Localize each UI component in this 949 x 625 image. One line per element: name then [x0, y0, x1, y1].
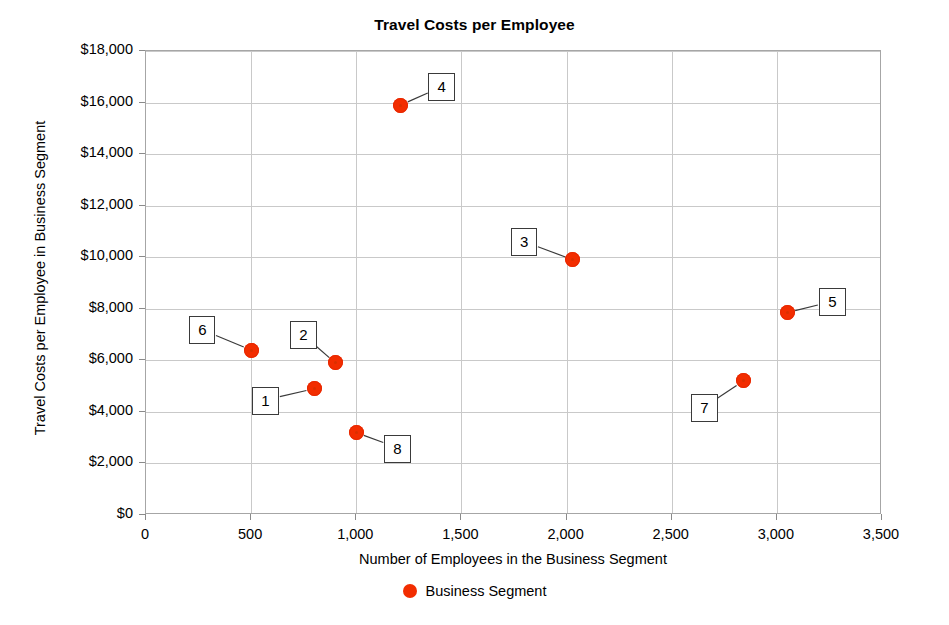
y-tick-label: $0	[33, 505, 133, 521]
x-tick-label: 2,000	[526, 526, 606, 542]
x-tick-mark	[355, 514, 356, 520]
y-tick-mark	[139, 50, 145, 51]
data-point	[565, 252, 580, 267]
data-point-label: 4	[428, 73, 454, 101]
leader-lines	[146, 51, 882, 515]
plot-area: 12345678	[145, 50, 881, 514]
y-tick-label: $16,000	[33, 93, 133, 109]
data-point-label: 3	[511, 228, 537, 256]
chart-title: Travel Costs per Employee	[0, 16, 949, 34]
data-point-label: 2	[290, 321, 316, 349]
x-tick-label: 0	[105, 526, 185, 542]
data-point	[307, 381, 322, 396]
data-point	[393, 98, 408, 113]
x-tick-label: 2,500	[631, 526, 711, 542]
y-gridline	[146, 257, 880, 258]
y-tick-mark	[139, 462, 145, 463]
legend-label: Business Segment	[426, 583, 547, 599]
y-tick-mark	[139, 411, 145, 412]
y-tick-mark	[139, 359, 145, 360]
y-tick-mark	[139, 205, 145, 206]
chart-legend: Business Segment	[0, 583, 949, 601]
y-gridline	[146, 51, 880, 52]
x-gridline	[251, 51, 252, 513]
x-tick-label: 1,000	[315, 526, 395, 542]
y-gridline	[146, 463, 880, 464]
y-gridline	[146, 154, 880, 155]
x-tick-label: 1,500	[420, 526, 500, 542]
x-tick-mark	[566, 514, 567, 520]
y-tick-label: $12,000	[33, 196, 133, 212]
y-gridline	[146, 360, 880, 361]
x-tick-label: 3,500	[841, 526, 921, 542]
y-tick-label: $2,000	[33, 453, 133, 469]
y-tick-label: $18,000	[33, 41, 133, 57]
data-point-label: 5	[819, 288, 845, 316]
y-tick-label: $4,000	[33, 402, 133, 418]
x-gridline	[672, 51, 673, 513]
x-tick-mark	[460, 514, 461, 520]
scatter-chart: Travel Costs per Employee Travel Costs p…	[0, 0, 949, 625]
x-tick-mark	[250, 514, 251, 520]
data-point	[328, 355, 343, 370]
y-gridline	[146, 309, 880, 310]
x-gridline	[777, 51, 778, 513]
y-tick-mark	[139, 153, 145, 154]
x-tick-mark	[881, 514, 882, 520]
y-tick-mark	[139, 102, 145, 103]
data-point-label: 6	[189, 316, 215, 344]
y-axis-title: Travel Costs per Employee in Business Se…	[32, 43, 48, 513]
x-tick-label: 500	[210, 526, 290, 542]
x-tick-mark	[671, 514, 672, 520]
y-tick-mark	[139, 256, 145, 257]
y-tick-label: $8,000	[33, 299, 133, 315]
y-tick-label: $6,000	[33, 350, 133, 366]
data-point	[244, 343, 259, 358]
data-point	[780, 305, 795, 320]
x-tick-mark	[145, 514, 146, 520]
data-point-label: 8	[384, 435, 410, 463]
data-point-label: 1	[252, 387, 278, 415]
x-tick-label: 3,000	[736, 526, 816, 542]
data-point	[736, 373, 751, 388]
x-axis-title: Number of Employees in the Business Segm…	[145, 551, 881, 567]
y-tick-mark	[139, 308, 145, 309]
x-gridline	[567, 51, 568, 513]
y-tick-label: $14,000	[33, 144, 133, 160]
y-gridline	[146, 103, 880, 104]
data-point	[349, 425, 364, 440]
x-tick-mark	[776, 514, 777, 520]
x-gridline	[356, 51, 357, 513]
data-point-label: 7	[691, 394, 717, 422]
y-gridline	[146, 206, 880, 207]
y-tick-label: $10,000	[33, 247, 133, 263]
x-gridline	[461, 51, 462, 513]
legend-marker-icon	[403, 584, 417, 598]
